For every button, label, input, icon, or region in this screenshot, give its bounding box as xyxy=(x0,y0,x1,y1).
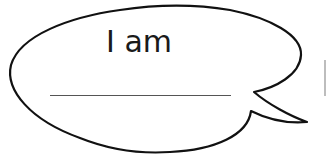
prompt-text: I am xyxy=(106,24,172,60)
answer-blank-line[interactable] xyxy=(50,95,231,96)
